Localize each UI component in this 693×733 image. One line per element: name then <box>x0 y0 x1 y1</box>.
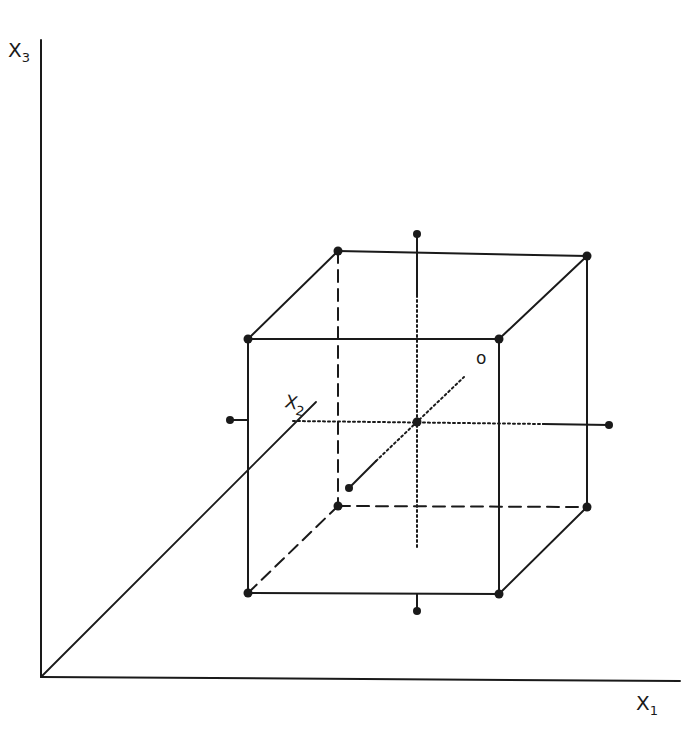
axial-point-x2-high-label: o <box>476 348 486 368</box>
cube-corner-point <box>244 589 253 598</box>
cube-corner-point <box>244 335 253 344</box>
axial-point-x3-high <box>413 230 421 238</box>
axial-x2-front-solid <box>349 461 376 488</box>
cube-corner-point <box>495 335 504 344</box>
x1-axis <box>41 677 680 681</box>
cube-corner-point <box>583 252 592 261</box>
axial-point-x2-low <box>345 484 353 492</box>
central-composite-design-diagram: X3 X1 X2 o <box>0 0 693 733</box>
axial-point-x3-low <box>413 607 421 615</box>
cube-top-left-depth-edge <box>248 251 338 339</box>
x2-axis <box>41 402 316 677</box>
x3-axis-label: X3 <box>8 38 30 65</box>
cube-back-top-edge <box>338 251 587 256</box>
cube-back-bottom-edge-hidden <box>338 506 587 507</box>
cube-bottom-right-depth-edge <box>499 507 587 594</box>
axial-point-x1-high <box>605 421 613 429</box>
x1-axis-label: X1 <box>636 691 658 718</box>
cube-corner-point <box>334 247 343 256</box>
cube-top-right-depth-edge <box>499 256 587 339</box>
cube-corner-point <box>334 502 343 511</box>
cube-corner-point <box>495 590 504 599</box>
cube-corner-point <box>583 503 592 512</box>
axial-point-x1-low <box>226 416 234 424</box>
cube-front-bottom-edge <box>248 593 499 594</box>
center-point <box>413 418 422 427</box>
axial-x1-right-solid <box>543 424 609 425</box>
cube-bottom-left-depth-edge-hidden <box>248 506 338 593</box>
